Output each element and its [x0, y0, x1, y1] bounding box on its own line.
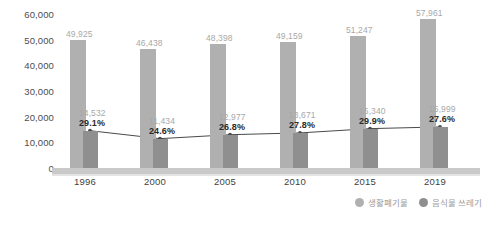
- value-label-household-waste: 46,438: [136, 38, 163, 48]
- x-axis-tick-label-1996: 1996: [74, 176, 96, 187]
- value-label-food-waste: 13,671: [289, 110, 316, 120]
- y-axis-tick-label: 20,000: [24, 111, 54, 122]
- value-label-household-waste: 48,398: [206, 33, 233, 43]
- y-axis: 60,00050,00040,00030,00020,00010,0000: [6, 0, 54, 228]
- bar-food-waste: [153, 139, 168, 168]
- percentage-label: 29.1%: [79, 118, 105, 128]
- x-axis: 199620002005201020152019: [56, 176, 476, 192]
- bar-group-2019: [420, 14, 450, 168]
- value-label-food-waste: 11,434: [149, 116, 175, 126]
- value-label-household-waste: 49,925: [66, 29, 93, 39]
- legend-swatch-circle-icon: [355, 198, 364, 207]
- value-label-household-waste: 51,247: [346, 25, 373, 35]
- legend-label: 음식물 쓰레기: [432, 196, 482, 208]
- x-axis-tick-label-2015: 2015: [354, 176, 376, 187]
- bar-food-waste: [83, 131, 98, 168]
- percentage-label: 27.8%: [289, 120, 315, 130]
- legend-label: 생활폐기물: [368, 196, 408, 208]
- value-label-household-waste: 49,159: [276, 31, 303, 41]
- value-label-food-waste: 12,977: [219, 112, 246, 122]
- y-axis-tick-label: 10,000: [24, 137, 54, 148]
- value-label-food-waste: 14,532: [79, 108, 106, 118]
- value-label-household-waste: 57,961: [416, 8, 443, 18]
- bar-food-waste: [223, 135, 238, 168]
- y-axis-tick-label: 40,000: [24, 60, 54, 71]
- value-label-food-waste: 15,340: [359, 106, 386, 116]
- legend-item[interactable]: 음식물 쓰레기: [419, 196, 482, 208]
- percentage-label: 24.6%: [149, 126, 175, 136]
- percentage-line-series: [56, 14, 476, 168]
- bar-food-waste: [293, 133, 308, 168]
- legend: 생활폐기물음식물 쓰레기: [355, 196, 482, 208]
- x-axis-tick-label-2019: 2019: [424, 176, 446, 187]
- y-axis-tick-label: 50,000: [24, 34, 54, 45]
- y-axis-tick-label: 30,000: [24, 86, 54, 97]
- percentage-label: 29.9%: [359, 116, 385, 126]
- value-label-food-waste: 15,999: [429, 104, 456, 114]
- y-axis-tick-label: 60,000: [24, 9, 54, 20]
- bar-food-waste: [433, 127, 448, 168]
- percentage-label: 27.6%: [429, 114, 455, 124]
- waste-bar-chart: 60,00050,00040,00030,00020,00010,0000 49…: [0, 0, 490, 228]
- plot-area: 49,92514,53229.1%46,43811,43424.6%48,398…: [56, 14, 476, 168]
- percentage-label: 26.8%: [219, 122, 245, 132]
- x-axis-tick-label-2005: 2005: [214, 176, 236, 187]
- bar-group-2015: [350, 14, 380, 168]
- bar-food-waste: [363, 129, 378, 168]
- legend-item[interactable]: 생활폐기물: [355, 196, 408, 208]
- x-axis-tick-label-2000: 2000: [144, 176, 166, 187]
- legend-swatch-circle-icon: [419, 198, 428, 207]
- x-axis-tick-label-2010: 2010: [284, 176, 306, 187]
